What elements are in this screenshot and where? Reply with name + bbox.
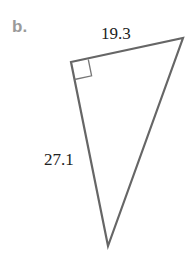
right-angle-marker	[75, 60, 92, 80]
top-side-length: 19.3	[101, 24, 131, 44]
triangle	[71, 38, 183, 246]
right-triangle-figure	[0, 0, 194, 256]
left-side-length: 27.1	[44, 150, 74, 170]
